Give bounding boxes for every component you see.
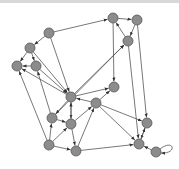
edge-n5-n6: [118, 18, 132, 19]
graph-node-n6: [132, 15, 142, 25]
directed-graph-canvas: [0, 0, 179, 169]
edge-n8-n10: [76, 88, 109, 96]
graph-node-n4: [31, 61, 41, 71]
graph-node-n14: [71, 146, 81, 156]
edge-n13-n14: [54, 146, 71, 150]
graph-node-n12: [66, 119, 76, 129]
graph-node-n8: [66, 92, 76, 102]
edge-n16-n15: [141, 128, 145, 139]
edge-n13-n12: [53, 128, 67, 142]
edge-n13-n11: [50, 124, 52, 141]
edges-layer: [19, 18, 172, 153]
edge-n14-n9: [78, 108, 94, 146]
graph-node-n13: [44, 140, 54, 150]
self-loop-n17: [160, 145, 172, 153]
graph-node-n15: [142, 118, 152, 128]
edge-n6-n15: [138, 25, 147, 118]
edge-n2-n4: [32, 53, 35, 61]
graph-node-n3: [12, 61, 22, 71]
edge-n7-n5: [116, 23, 125, 37]
edge-n7-n16: [129, 46, 139, 139]
graph-node-n16: [134, 139, 144, 149]
graph-node-n7: [123, 36, 133, 46]
graph-node-n11: [47, 113, 57, 123]
graph-node-n9: [91, 98, 101, 108]
edge-n1-n2: [34, 36, 45, 45]
graph-node-n17: [151, 147, 161, 157]
edge-n5-n10: [113, 23, 114, 82]
edge-n1-n5: [54, 19, 108, 32]
graph-node-n2: [25, 43, 35, 53]
graph-node-n10: [109, 82, 119, 92]
edge-n9-n8: [76, 98, 91, 102]
graph-node-n1: [44, 28, 54, 38]
edge-n13-n3: [19, 71, 47, 140]
edge-n17-n16: [144, 146, 152, 150]
edge-n8-n11: [56, 101, 68, 114]
edge-n11-n12: [57, 120, 66, 123]
edge-n12-n14: [72, 129, 75, 146]
edge-n8-n3: [22, 69, 67, 95]
edge-n6-n7: [130, 25, 135, 36]
edge-n9-n10: [100, 91, 110, 100]
graph-node-n5: [108, 13, 118, 23]
edge-n2-n3: [20, 52, 27, 61]
edge-n14-n16: [81, 145, 134, 151]
